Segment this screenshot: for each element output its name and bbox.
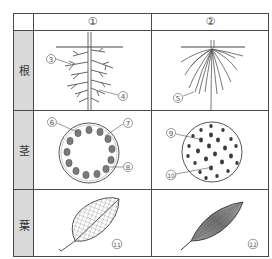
column-header-2: ②	[152, 14, 269, 30]
dicot-stem-cross-section: 6 7 8	[33, 110, 151, 189]
taproot-drawing: 3 4	[33, 30, 151, 110]
svg-text:11: 11	[113, 241, 121, 248]
fibrous-root-drawing: 5	[151, 30, 269, 110]
svg-text:5: 5	[176, 95, 180, 103]
svg-text:3: 3	[49, 56, 53, 64]
svg-text:7: 7	[126, 120, 130, 128]
row-label-root: 根	[14, 62, 34, 78]
svg-text:4: 4	[121, 93, 126, 101]
monocot-stem-cross-section: 9 10	[151, 110, 269, 189]
svg-text:6: 6	[50, 119, 55, 127]
netted-vein-leaf: 11	[33, 189, 151, 257]
row-label-stem: 茎	[14, 142, 34, 158]
svg-text:10: 10	[167, 172, 175, 179]
svg-text:9: 9	[169, 130, 173, 138]
row-label-leaf: 葉	[14, 217, 34, 233]
svg-text:8: 8	[126, 164, 130, 172]
column-header-1: ①	[34, 14, 151, 30]
svg-text:12: 12	[249, 241, 257, 248]
parallel-vein-leaf: 12	[151, 189, 269, 257]
